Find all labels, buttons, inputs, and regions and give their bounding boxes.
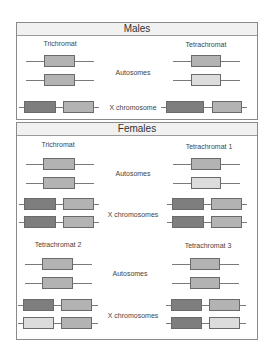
females-x-label: X chromosomes [108, 211, 159, 218]
females-tetrachromat1-label: Tetrachromat 1 [186, 143, 233, 150]
females-tetrachromat3-label: Tetrachromat 3 [185, 242, 232, 249]
females-x-label-2: X chromosomes [108, 312, 159, 319]
males-header: Males [17, 23, 257, 36]
males-tetrachromat-label: Tetrachromat [186, 41, 227, 48]
females-autosomes-label: Autosomes [115, 170, 150, 177]
females-autosomes-label-2: Autosomes [112, 270, 147, 277]
males-autosomes-label: Autosomes [115, 69, 150, 76]
females-tetrachromat2-label: Tetrachromat 2 [35, 241, 82, 248]
males-x-label: X chromosome [109, 104, 156, 111]
females-header: Females [17, 123, 257, 136]
males-trichromat-label: Trichromat [43, 40, 76, 47]
females-trichromat-label: Trichromat [41, 141, 74, 148]
